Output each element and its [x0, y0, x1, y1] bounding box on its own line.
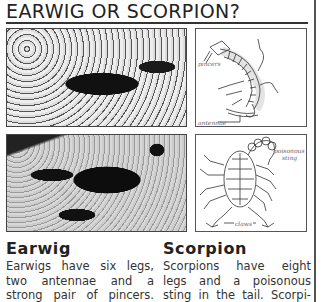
scorpion-description: Scorpions have eight legs and a poisonou…: [163, 259, 311, 302]
earwig-line: two antennae and a: [6, 274, 154, 289]
page-border: [314, 0, 316, 302]
label-antennae: antennae: [198, 119, 226, 126]
earwig-line: Earwigs have six legs,: [6, 259, 154, 274]
earwig-drawing-icon: [196, 29, 308, 128]
earwig-line: strong pair of pincers.: [6, 288, 154, 302]
label-poisonous: poisonous: [274, 147, 304, 154]
label-pincers: pincers: [198, 60, 220, 67]
title-underline: [6, 22, 308, 24]
earwig-diagram: pincers antennae: [195, 28, 307, 127]
scorpion-line: sting in the tail. Scorpi-: [163, 288, 311, 302]
label-claws: claws: [234, 220, 253, 227]
scorpion-line: legs and a poisonous: [163, 274, 311, 289]
earwig-description: Earwigs have six legs, two antennae and …: [6, 259, 154, 302]
scorpion-photo: [6, 134, 187, 232]
scorpion-heading: Scorpion: [163, 240, 247, 258]
label-sting: sting: [282, 154, 297, 161]
earwig-photo: [6, 28, 187, 127]
scorpion-line: Scorpions have eight: [163, 259, 311, 274]
scorpion-diagram: poisonous sting claws: [195, 134, 307, 232]
earwig-heading: Earwig: [6, 240, 71, 258]
page-title: EARWIG OR SCORPION?: [6, 0, 308, 22]
